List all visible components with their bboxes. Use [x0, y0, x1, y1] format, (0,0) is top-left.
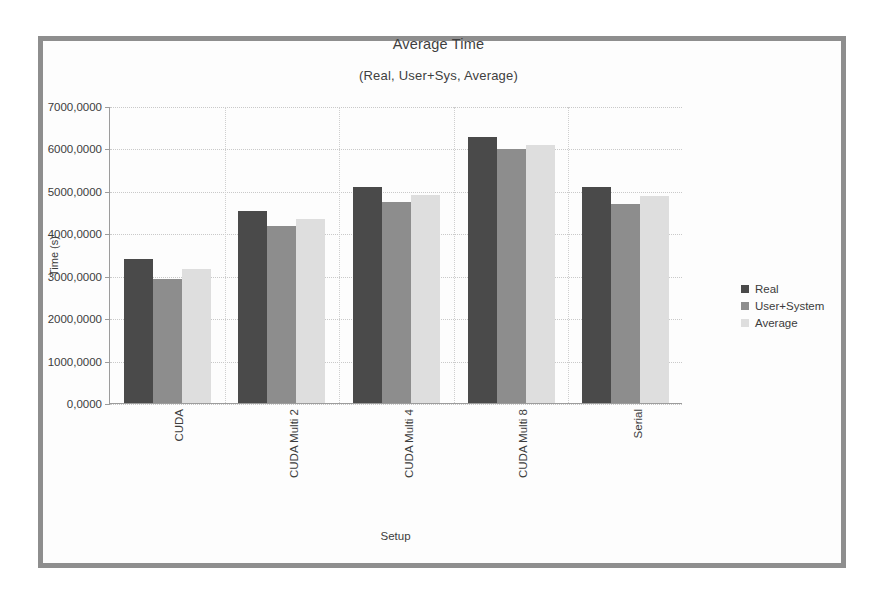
legend-item[interactable]: User+System [741, 297, 824, 314]
bar[interactable] [382, 202, 411, 403]
bar[interactable] [582, 187, 611, 403]
y-axis-tick [105, 192, 110, 193]
bar[interactable] [296, 219, 325, 403]
legend-label: Average [755, 317, 798, 329]
bar-group-serial [582, 107, 669, 403]
x-axis-category-label: CUDA Multi 2 [288, 409, 300, 478]
legend-label: User+System [755, 300, 824, 312]
bar[interactable] [611, 204, 640, 403]
bar-group-cuda-multi-8 [468, 107, 555, 403]
bar[interactable] [182, 269, 211, 403]
y-axis-tick-label: 2000,0000 [48, 313, 102, 325]
bar[interactable] [411, 195, 440, 403]
y-axis-tick [105, 149, 110, 150]
bar[interactable] [153, 279, 182, 403]
bar[interactable] [267, 226, 296, 403]
y-axis-tick [105, 107, 110, 108]
legend-swatch-icon [741, 319, 749, 327]
y-axis-tick-label: 6000,0000 [48, 143, 102, 155]
y-axis-tick [105, 234, 110, 235]
y-axis-tick-label: 0,0000 [67, 398, 102, 410]
legend-label: Real [755, 283, 779, 295]
x-axis-category-label: CUDA Multi 8 [517, 409, 529, 478]
bar-group-cuda-multi-2 [238, 107, 325, 403]
x-axis-title: Setup [109, 530, 682, 542]
bar-group-cuda-multi-4 [353, 107, 440, 403]
y-axis-tick [105, 319, 110, 320]
bar[interactable] [124, 259, 153, 403]
bar-group-cuda [124, 107, 211, 403]
plot-area: 0,00001000,00002000,00003000,00004000,00… [109, 107, 682, 404]
x-axis-category-label: CUDA Multi 4 [403, 409, 415, 478]
bar[interactable] [238, 211, 267, 403]
x-axis-category-label: CUDA [173, 409, 185, 442]
legend-item[interactable]: Real [741, 280, 824, 297]
gridline [110, 404, 682, 405]
y-axis-tick [105, 277, 110, 278]
y-axis-tick [105, 404, 110, 405]
legend-swatch-icon [741, 302, 749, 310]
legend-swatch-icon [741, 285, 749, 293]
legend-item[interactable]: Average [741, 314, 824, 331]
y-axis-tick [105, 362, 110, 363]
chart-title: Average Time [0, 36, 877, 52]
y-axis-tick-label: 5000,0000 [48, 186, 102, 198]
x-axis-category-label: Serial [632, 409, 644, 438]
y-axis-tick-label: 7000,0000 [48, 101, 102, 113]
chart-legend: RealUser+SystemAverage [741, 280, 824, 331]
y-axis-title: Time (s) [48, 236, 60, 276]
bar[interactable] [468, 137, 497, 403]
bar[interactable] [526, 145, 555, 403]
bars-layer [110, 107, 682, 403]
chart-subtitle: (Real, User+Sys, Average) [0, 68, 877, 83]
y-axis-tick-label: 1000,0000 [48, 356, 102, 368]
bar[interactable] [497, 149, 526, 403]
bar[interactable] [353, 187, 382, 403]
bar[interactable] [640, 196, 669, 403]
